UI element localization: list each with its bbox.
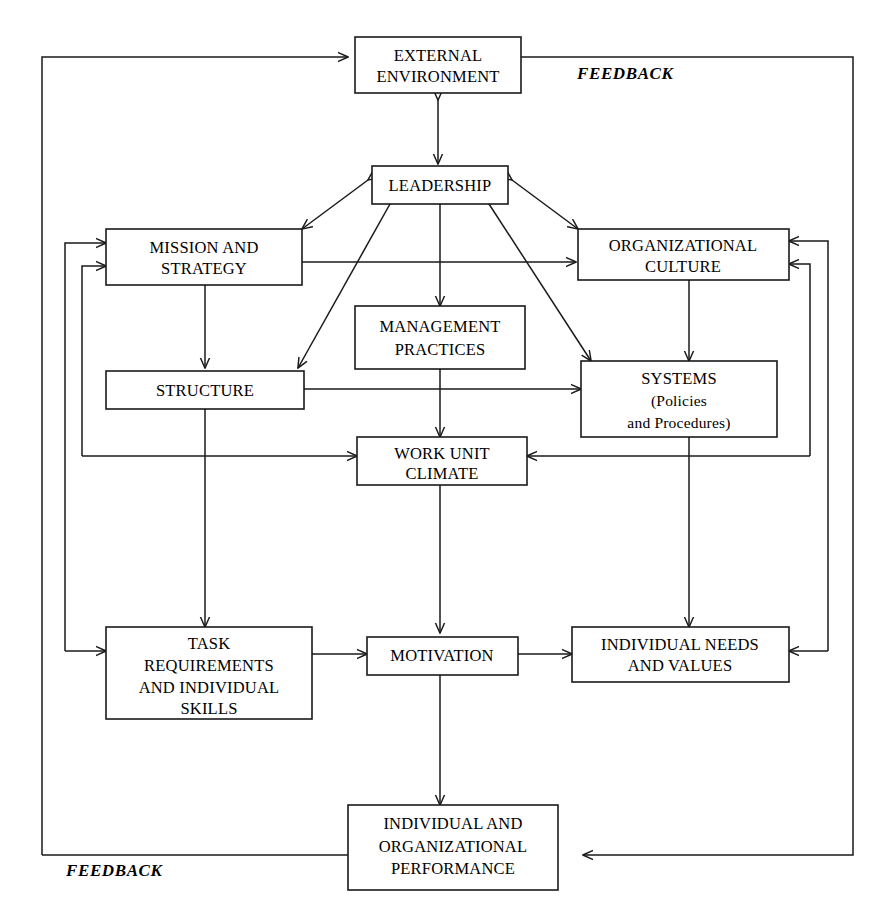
node-individual-needs[interactable]: INDIVIDUAL NEEDS AND VALUES bbox=[572, 627, 789, 682]
node-external-environment[interactable]: EXTERNAL ENVIRONMENT bbox=[355, 37, 521, 93]
node-label-systems-line2: (Policies bbox=[651, 392, 707, 410]
node-label-performance-line3: PERFORMANCE bbox=[391, 859, 515, 878]
node-label-climate-line1: WORK UNIT bbox=[394, 444, 490, 463]
node-label-systems-line3: and Procedures) bbox=[627, 414, 730, 432]
node-systems[interactable]: SYSTEMS (Policies and Procedures) bbox=[581, 361, 777, 437]
feedback-label-top: FEEDBACK bbox=[576, 64, 675, 83]
edge-leadership-culture bbox=[512, 180, 578, 229]
node-label-performance-line1: INDIVIDUAL AND bbox=[383, 814, 522, 833]
node-label-structure: STRUCTURE bbox=[156, 381, 254, 400]
node-performance[interactable]: INDIVIDUAL AND ORGANIZATIONAL PERFORMANC… bbox=[348, 805, 558, 890]
feedback-rail-left-inner-2 bbox=[82, 266, 106, 456]
node-motivation[interactable]: MOTIVATION bbox=[367, 637, 518, 675]
node-management-practices[interactable]: MANAGEMENT PRACTICES bbox=[355, 306, 525, 369]
node-label-task-line3: AND INDIVIDUAL bbox=[139, 678, 280, 697]
feedback-rail-right-inner-2 bbox=[789, 264, 810, 456]
feedback-rail-left-inner-1 bbox=[65, 243, 106, 651]
node-structure[interactable]: STRUCTURE bbox=[106, 371, 304, 409]
node-label-needs-line2: AND VALUES bbox=[628, 656, 733, 675]
node-label-task-line1: TASK bbox=[188, 634, 231, 653]
node-task-requirements[interactable]: TASK REQUIREMENTS AND INDIVIDUAL SKILLS bbox=[106, 627, 312, 719]
node-label-management-line2: PRACTICES bbox=[395, 340, 486, 359]
node-label-mission-line2: STRATEGY bbox=[161, 259, 247, 278]
node-label-climate-line2: CLIMATE bbox=[406, 464, 479, 483]
node-work-unit-climate[interactable]: WORK UNIT CLIMATE bbox=[357, 437, 527, 485]
burke-litwin-diagram: EXTERNAL ENVIRONMENT LEADERSHIP MISSION … bbox=[0, 0, 887, 924]
node-label-task-line2: REQUIREMENTS bbox=[144, 656, 274, 675]
node-label-needs-line1: INDIVIDUAL NEEDS bbox=[601, 635, 759, 654]
node-label-mission-line1: MISSION AND bbox=[149, 238, 258, 257]
node-label-performance-line2: ORGANIZATIONAL bbox=[379, 837, 528, 856]
diagram-canvas: EXTERNAL ENVIRONMENT LEADERSHIP MISSION … bbox=[0, 0, 887, 924]
node-label-culture-line2: CULTURE bbox=[645, 257, 721, 276]
node-mission-and-strategy[interactable]: MISSION AND STRATEGY bbox=[106, 229, 302, 285]
node-label-systems-line1: SYSTEMS bbox=[641, 369, 717, 388]
feedback-rail-right-inner-1 bbox=[789, 241, 828, 651]
edge-leadership-mission bbox=[302, 180, 368, 229]
node-label-external-environment-line2: ENVIRONMENT bbox=[376, 67, 499, 86]
feedback-label-bottom: FEEDBACK bbox=[65, 861, 164, 880]
node-label-motivation: MOTIVATION bbox=[390, 646, 493, 665]
node-leadership[interactable]: LEADERSHIP bbox=[372, 166, 508, 204]
node-label-task-line4: SKILLS bbox=[180, 699, 237, 718]
node-label-culture-line1: ORGANIZATIONAL bbox=[609, 236, 758, 255]
node-organizational-culture[interactable]: ORGANIZATIONAL CULTURE bbox=[578, 229, 789, 280]
node-label-external-environment-line1: EXTERNAL bbox=[394, 46, 483, 65]
node-label-leadership: LEADERSHIP bbox=[389, 176, 492, 195]
node-label-management-line1: MANAGEMENT bbox=[379, 317, 500, 336]
